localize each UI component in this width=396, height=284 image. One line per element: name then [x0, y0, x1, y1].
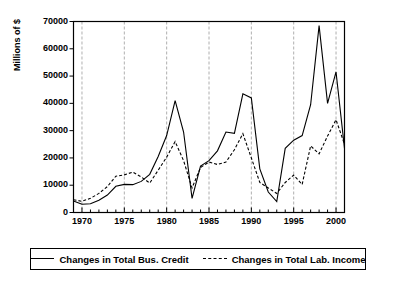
axis-ticks	[70, 22, 345, 213]
legend-item-lab-income: Changes in Total Lab. Income	[203, 254, 366, 265]
legend-line-solid-icon	[30, 255, 54, 263]
plot-area	[0, 0, 396, 235]
x-tick-label: 1970	[62, 216, 102, 226]
x-tick-label: 1995	[274, 216, 314, 226]
x-tick-label: 2000	[316, 216, 356, 226]
chart-legend: Changes in Total Bus. Credit Changes in …	[30, 248, 366, 270]
legend-label: Changes in Total Bus. Credit	[59, 254, 188, 265]
x-tick-label: 1990	[231, 216, 271, 226]
line-chart-svg	[0, 0, 396, 235]
x-axis-tick-labels: 1970197519801985199019952000	[0, 216, 396, 232]
legend-label: Changes in Total Lab. Income	[232, 254, 366, 265]
legend-item-bus-credit: Changes in Total Bus. Credit	[30, 254, 188, 265]
x-tick-label: 1985	[189, 216, 229, 226]
x-tick-label: 1980	[147, 216, 187, 226]
legend-line-dashed-icon	[203, 255, 227, 263]
x-tick-label: 1975	[104, 216, 144, 226]
x-gridlines	[82, 22, 336, 213]
chart-figure: Millions of $ 01000020000300004000050000…	[0, 0, 396, 284]
